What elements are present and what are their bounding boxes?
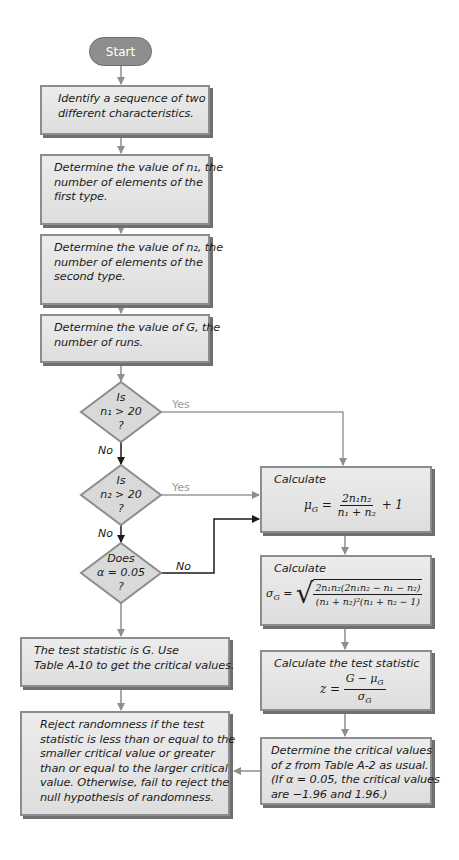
formula-z: z = G − μG σG [320,672,386,707]
step-text: different characteristics. [58,107,200,122]
decision-text-n1: Is n₁ > 20 ? [81,391,161,433]
fraction: G − μG σG [344,672,386,707]
label-no-d2: No [98,527,113,540]
step-text: of z from Table A-2 as usual. [271,759,426,774]
step-text: Determine the value of n₁, the [54,161,200,176]
step-text: Determine the value of n₂, the [54,241,200,256]
step-critical-values: Determine the critical values of z from … [260,737,432,805]
step-text: Reject randomness if the test [40,718,220,733]
formula-sub: G [312,505,318,514]
denominator: n₁ + n₂ [335,506,378,519]
label-yes-d2: Yes [172,481,190,494]
step-reject: Reject randomness if the test statistic … [20,711,230,816]
decision-text-n2: Is n₂ > 20 ? [81,474,161,516]
decision-line: Is [81,474,161,488]
fraction: 2n₁n₂ n₁ + n₂ [335,492,378,519]
step-text: value. Otherwise, fail to reject the [40,776,220,791]
step-text: than or equal to the larger critical [40,762,220,777]
formula-mu: μG = 2n₁n₂ n₁ + n₂ + 1 [304,492,403,519]
square-root: √ 2n₁n₂(2n₁n₂ − n₁ − n₂) (n₁ + n₂)²(n₁ +… [296,579,423,609]
step-text: number of runs. [54,336,200,351]
runs-test-flowchart: Start Identify a sequence of two differe… [0,0,459,860]
decision-line: α = 0.05 [81,566,161,580]
label-no-d1: No [98,444,113,457]
decision-line: Is [81,391,161,405]
step-text: Table A-10 to get the critical values. [34,659,220,674]
start-terminal: Start [89,37,152,66]
step-text: Determine the value of G, the [54,321,200,336]
step-label: Calculate [274,562,422,577]
equals: = [283,587,292,600]
step-text: null hypothesis of randomness. [40,791,220,806]
formula-lhs: μ [304,498,312,512]
numerator: 2n₁n₂ [340,492,374,506]
decision-line: n₁ > 20 [81,405,161,419]
step-test-statistic-G: The test statistic is G. Use Table A-10 … [20,637,230,687]
step-text: Identify a sequence of two [58,92,200,107]
step-identify: Identify a sequence of two different cha… [40,85,210,135]
step-calc-sigma: Calculate σG = √ 2n₁n₂(2n₁n₂ − n₁ − n₂) … [260,555,432,626]
step-text: second type. [54,270,200,285]
decision-line: n₂ > 20 [81,488,161,502]
radical-sign: √ [296,579,314,609]
equals: = [330,682,340,696]
step-text: first type. [54,190,200,205]
step-calc-mu: Calculate μG = 2n₁n₂ n₁ + n₂ + 1 [260,466,432,533]
numerator-text: G − μ [346,672,378,685]
step-text: are −1.96 and 1.96.) [271,788,426,803]
formula-lhs: z [320,682,326,696]
step-n2: Determine the value of n₂, the number of… [40,234,210,305]
step-text: number of elements of the [54,176,200,191]
decision-line: ? [81,580,161,594]
label-yes-d1: Yes [172,398,190,411]
step-text: statistic is less than or equal to the [40,733,220,748]
equals: = [322,498,332,512]
step-label: Calculate [274,473,422,488]
fraction: 2n₁n₂(2n₁n₂ − n₁ − n₂) (n₁ + n₂)²(n₁ + n… [313,581,422,608]
step-text: Determine the critical values [271,744,426,759]
formula-sub: G [377,678,383,687]
step-text: The test statistic is G. Use [34,644,220,659]
step-G: Determine the value of G, the number of … [40,314,210,363]
step-text: smaller critical value or greater [40,747,220,762]
step-n1: Determine the value of n₁, the number of… [40,154,210,225]
step-text: number of elements of the [54,256,200,271]
label-no-d3: No [176,560,191,573]
numerator: G − μG [344,672,386,690]
denominator: (n₁ + n₂)²(n₁ + n₂ − 1) [314,595,422,608]
numerator: 2n₁n₂(2n₁n₂ − n₁ − n₂) [313,581,422,595]
step-text: (If α = 0.05, the critical values [271,773,426,788]
decision-line: ? [81,419,161,433]
formula-sub: G [365,696,371,705]
denominator: σG [356,690,374,707]
formula-sigma: σG = √ 2n₁n₂(2n₁n₂ − n₁ − n₂) (n₁ + n₂)²… [266,579,422,609]
decision-text-alpha: Does α = 0.05 ? [81,552,161,594]
decision-line: Does [81,552,161,566]
decision-line: ? [81,502,161,516]
formula-sub: G [273,593,279,602]
step-label: Calculate the test statistic [274,657,422,672]
formula-tail: + 1 [382,498,403,512]
step-calc-z: Calculate the test statistic z = G − μG … [260,650,432,711]
arrow-d1-yes [161,412,343,465]
